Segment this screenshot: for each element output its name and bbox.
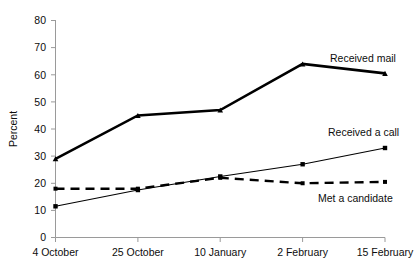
y-tick-label: 40	[34, 123, 46, 135]
y-tick-label: 20	[34, 177, 46, 189]
y-tick-label: 30	[34, 150, 46, 162]
data-point-marker	[136, 187, 140, 191]
y-tick-label: 10	[34, 204, 46, 216]
chart-svg: 80 70 60 50 40 30 20 10 0 Percent 4 Octo…	[0, 0, 416, 274]
data-point-marker	[300, 162, 304, 166]
y-tick-label: 50	[34, 96, 46, 108]
series-annotation-received-a-call: Received a call	[328, 126, 399, 138]
x-tick-label-0: 4 October	[32, 246, 79, 258]
y-tick-label: 0	[40, 231, 46, 243]
data-point-marker	[53, 204, 57, 208]
y-tick-label: 60	[34, 69, 46, 81]
y-tick-label: 70	[34, 41, 46, 53]
y-tick-label: 80	[34, 14, 46, 26]
x-tick-label-4: 15 February	[357, 246, 414, 258]
line-chart: 80 70 60 50 40 30 20 10 0 Percent 4 Octo…	[0, 0, 416, 274]
data-point-marker	[54, 187, 58, 191]
series-annotation-received-mail: Received mail	[330, 52, 396, 64]
data-point-marker	[383, 180, 387, 184]
x-tick-label-2: 10 January	[194, 246, 247, 258]
series-annotation-met-a-candidate: Met a candidate	[318, 192, 393, 204]
y-tick-labels: 80 70 60 50 40 30 20 10 0	[34, 14, 46, 243]
data-point-marker	[383, 146, 387, 150]
data-point-marker	[218, 176, 222, 180]
x-tick-label-3: 2 February	[277, 246, 329, 258]
x-tick-label-1: 25 October	[112, 246, 164, 258]
y-axis-title: Percent	[7, 111, 19, 147]
data-point-marker	[301, 181, 305, 185]
